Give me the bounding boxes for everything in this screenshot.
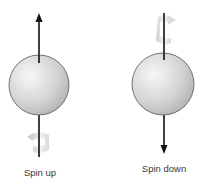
arrow-up-icon bbox=[36, 13, 43, 22]
rotation-curl-icon bbox=[27, 132, 49, 153]
spin-diagram bbox=[0, 0, 205, 185]
spin-up-panel bbox=[9, 13, 69, 157]
arrow-down-icon bbox=[161, 145, 168, 154]
spin-down-panel bbox=[132, 13, 194, 154]
rotation-curl-icon bbox=[156, 15, 176, 44]
spin-up-label: Spin up bbox=[24, 167, 56, 178]
spin-down-label: Spin down bbox=[142, 163, 186, 174]
spin-up-sphere bbox=[9, 55, 69, 115]
spin-down-sphere bbox=[132, 53, 194, 115]
